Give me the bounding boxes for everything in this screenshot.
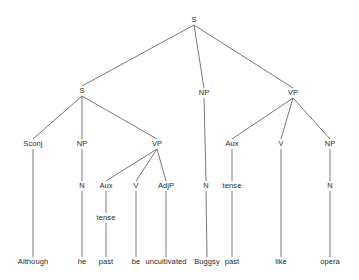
tree-edge <box>204 98 206 181</box>
tree-nonterminal-node: NP <box>324 140 337 148</box>
tree-nonterminal-node: N <box>326 182 334 190</box>
tree-leaf-node: opera <box>319 258 341 266</box>
tree-edge <box>293 98 330 139</box>
tree-leaf-node: Although <box>17 258 49 266</box>
tree-leaf-node: like <box>274 258 288 266</box>
tree-leaf-node: past <box>98 258 115 266</box>
tree-nonterminal-node: V <box>132 182 139 190</box>
tree-edge <box>136 149 157 181</box>
tree-nonterminal-node: N <box>202 182 210 190</box>
tree-edge <box>194 25 293 88</box>
tree-edge <box>106 149 157 181</box>
tree-nonterminal-node: Aux <box>224 140 239 148</box>
tree-nonterminal-node: S <box>78 87 85 95</box>
tree-nonterminal-node: Aux <box>98 182 113 190</box>
tree-leaf-node: uncultivated <box>144 258 187 266</box>
tree-edge <box>157 149 166 181</box>
tree-leaf-node: past <box>224 258 241 266</box>
tree-nonterminal-node: tense <box>96 214 117 222</box>
syntax-tree-diagram: SSNPVPSconjNPVPNAuxVNPNAuxVAdjPtenseNten… <box>0 0 359 280</box>
tree-nonterminal-node: Sconj <box>22 140 43 148</box>
tree-edge <box>194 25 204 88</box>
tree-edge <box>232 98 293 139</box>
tree-leaf-node: Buggsy <box>193 258 221 266</box>
tree-edge <box>82 96 157 139</box>
tree-nonterminal-node: VP <box>151 140 163 148</box>
tree-nonterminal-node: V <box>277 140 284 148</box>
tree-nonterminal-node: N <box>78 182 86 190</box>
tree-edge <box>82 25 194 86</box>
tree-leaf-node: be <box>131 258 142 266</box>
tree-leaf-node: he <box>77 258 88 266</box>
tree-edge <box>281 98 293 139</box>
tree-nonterminal-node: NP <box>198 89 211 97</box>
tree-nonterminal-node: VP <box>287 89 299 97</box>
tree-nonterminal-node: NP <box>76 140 89 148</box>
tree-edges-layer <box>0 0 359 280</box>
tree-edge <box>206 191 207 257</box>
tree-nonterminal-node: S <box>190 16 197 24</box>
tree-nonterminal-node: tense <box>222 182 243 190</box>
tree-nonterminal-node: AdjP <box>157 182 175 190</box>
tree-edge <box>33 96 82 139</box>
